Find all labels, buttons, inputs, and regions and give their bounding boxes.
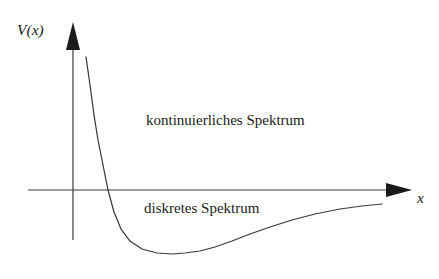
potential-energy-curve (86, 57, 382, 254)
x-axis-label: x (417, 190, 424, 206)
discrete-spectrum-label: diskretes Spektrum (144, 201, 259, 216)
x-axis-arrowhead (386, 183, 412, 197)
y-axis-arrowhead (66, 22, 80, 50)
diagram-canvas (0, 0, 439, 279)
y-axis-label: V(x) (17, 22, 44, 38)
potential-energy-figure: V(x) x kontinuierliches Spektrum diskret… (0, 0, 439, 279)
continuous-spectrum-label: kontinuierliches Spektrum (146, 113, 305, 128)
